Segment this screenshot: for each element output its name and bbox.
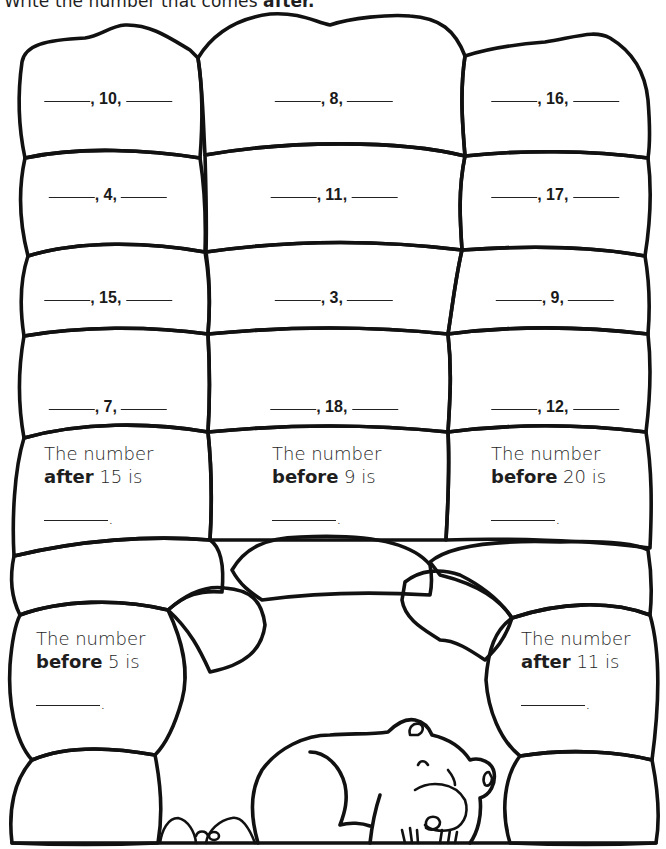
answer-blank[interactable] [491,519,555,521]
after-blank[interactable] [573,100,619,102]
question-line1: The number [44,442,153,465]
sequence-number: 11 [325,186,342,203]
question-after-15: The number after 15 is . [44,442,153,529]
sequence-box: ,3, [275,289,393,307]
stone-r1-middle [198,14,465,156]
answer-blank[interactable] [44,519,108,521]
answer-blank[interactable] [521,704,585,706]
answer-blank[interactable] [36,704,100,706]
before-blank[interactable] [44,100,90,102]
stone-r4-right [448,328,650,432]
sequence-number: 18 [325,398,343,415]
before-blank[interactable] [275,299,321,301]
after-blank[interactable] [573,196,619,198]
question-line1: The number [491,442,606,465]
stone-r4-left [20,328,210,438]
after-blank[interactable] [347,100,393,102]
sequence-box: ,9, [496,289,614,307]
before-blank[interactable] [271,196,317,198]
stone-bottom-right [505,752,658,845]
sequence-box: ,8, [275,90,393,108]
sequence-number: 16 [546,90,564,107]
sequence-box: ,11, [271,186,398,204]
sequence-number: 3 [329,289,338,306]
sequence-box: ,18, [270,398,398,416]
sequence-number: 12 [546,398,564,415]
instruction-text: Write the number that comes after. [4,0,315,11]
sequence-number: 7 [103,398,112,415]
stone-arch-right-small [402,571,512,660]
pebble-1 [160,818,196,843]
after-blank[interactable] [121,408,167,410]
question-keyword: before [36,651,102,672]
sequence-box: ,7, [49,398,167,416]
question-keyword: before [272,466,338,487]
sequence-box: ,10, [44,90,172,108]
sleeping-bear-icon [252,720,494,843]
pebble-2 [196,832,208,837]
question-keyword: after [44,466,94,487]
instruction-emphasis: after. [263,0,315,11]
question-line1: The number [521,627,630,650]
question-line1: The number [272,442,381,465]
question-before-5: The number before 5 is . [36,627,145,714]
after-blank[interactable] [351,196,397,198]
before-blank[interactable] [44,299,90,301]
after-blank[interactable] [573,408,619,410]
after-blank[interactable] [126,299,172,301]
question-after-11: The number after 11 is . [521,627,630,714]
stone-arch-top [232,536,432,600]
sequence-box: ,4, [49,186,167,204]
after-blank[interactable] [352,408,398,410]
answer-blank[interactable] [272,519,336,521]
stone-r4-middle [208,328,450,432]
instruction-prefix: Write the number that comes [4,0,258,11]
question-keyword: before [491,466,557,487]
cave-stone-illustration [0,0,666,849]
stone-bottom-left [11,749,161,845]
question-line1: The number [36,627,145,650]
sequence-number: 10 [99,90,117,107]
before-blank[interactable] [496,299,542,301]
sequence-number: 15 [99,289,117,306]
sequence-box: ,17, [491,186,619,204]
sequence-box: ,16, [491,90,619,108]
after-blank[interactable] [121,196,167,198]
before-blank[interactable] [491,408,537,410]
sequence-box: ,12, [491,398,619,416]
before-blank[interactable] [49,408,95,410]
before-blank[interactable] [270,408,316,410]
sequence-number: 8 [329,90,338,107]
question-keyword: after [521,651,571,672]
before-blank[interactable] [49,196,95,198]
after-blank[interactable] [568,299,614,301]
before-blank[interactable] [491,100,537,102]
question-before-9: The number before 9 is . [272,442,381,529]
sequence-number: 17 [546,186,564,203]
question-before-20: The number before 20 is . [491,442,606,529]
sequence-box: ,15, [44,289,172,307]
sequence-number: 4 [103,186,112,203]
before-blank[interactable] [275,100,321,102]
before-blank[interactable] [491,196,537,198]
sequence-number: 9 [550,289,559,306]
after-blank[interactable] [347,299,393,301]
after-blank[interactable] [126,100,172,102]
